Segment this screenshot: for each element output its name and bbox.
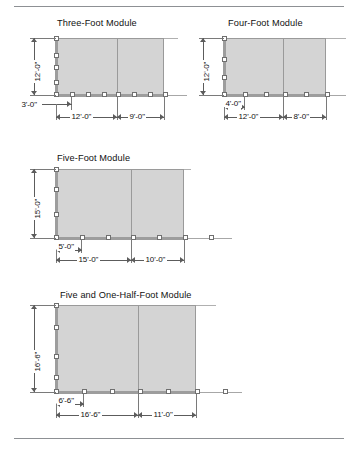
- bay-dimension-label: 8'-0": [292, 112, 310, 121]
- rail-node: [54, 80, 59, 85]
- dimension-tick: [31, 91, 37, 95]
- dimension-tick: [56, 257, 60, 263]
- rail-node: [86, 92, 91, 97]
- dimension-tick: [56, 114, 60, 120]
- figure-page: Three-Foot Module 12'-0" 3'-0": [0, 0, 357, 450]
- offset-dimension-label: 5'-0": [57, 242, 75, 251]
- height-dimension-label: 12'-0": [33, 60, 42, 83]
- witness-line: [199, 95, 224, 96]
- height-dimension-line: [34, 305, 35, 392]
- base-rail: [55, 237, 185, 240]
- witness-line: [71, 96, 72, 110]
- witness-line: [164, 96, 165, 120]
- page-rule-bottom: [14, 438, 344, 439]
- witness-line: [30, 392, 56, 393]
- rail-node: [222, 75, 227, 80]
- page-rule-top: [14, 6, 344, 7]
- bay-dimension-label: 11'-0": [152, 410, 174, 419]
- rail-node: [209, 235, 214, 240]
- bay-1: [224, 38, 284, 96]
- bay-2: [132, 169, 184, 239]
- height-dimension-label: 12'-0": [202, 60, 211, 83]
- rail-node: [222, 57, 227, 62]
- dimension-tick: [192, 412, 196, 418]
- dimension-tick: [31, 234, 37, 238]
- offset-dimension-label: 3'-0": [20, 100, 38, 109]
- dimension-tick: [67, 101, 71, 107]
- dimension-tick: [56, 412, 60, 418]
- rail-node: [157, 235, 162, 240]
- dimension-tick: [31, 388, 37, 392]
- rail-node: [304, 92, 309, 97]
- dimension-tick: [80, 401, 84, 407]
- dimension-tick: [117, 114, 121, 120]
- dimension-tick: [31, 38, 37, 42]
- dimension-tick: [31, 169, 37, 173]
- base-rail-extension: [165, 95, 187, 96]
- module-title: Five and One-Half-Foot Module: [60, 290, 192, 300]
- dimension-tick: [322, 114, 326, 120]
- rail-node: [106, 235, 111, 240]
- rail-node: [132, 92, 137, 97]
- witness-line: [326, 96, 327, 120]
- base-rail: [223, 94, 327, 97]
- bay-dimension-label: 16'-6": [79, 410, 102, 419]
- base-rail-extension: [197, 392, 242, 393]
- bay-dimension-label: 12'-0": [237, 112, 260, 121]
- bay-2: [118, 38, 164, 96]
- dimension-tick: [200, 38, 206, 42]
- bay-2: [139, 305, 196, 393]
- witness-line: [30, 95, 56, 96]
- rail-node: [148, 92, 153, 97]
- rail-node: [110, 389, 115, 394]
- module-title: Four-Foot Module: [228, 18, 303, 28]
- dimension-tick: [224, 114, 228, 120]
- bay-1: [56, 169, 132, 239]
- module-title: Three-Foot Module: [57, 18, 137, 28]
- rail-node: [54, 375, 59, 380]
- rail-node: [54, 325, 59, 330]
- base-rail: [55, 391, 197, 394]
- rail-node: [54, 354, 59, 359]
- dimension-tick: [31, 305, 37, 309]
- height-dimension-label: 15'-0": [33, 197, 42, 220]
- dimension-tick: [138, 412, 142, 418]
- left-rail: [223, 38, 226, 96]
- bay-dimension-label: 9'-0": [128, 112, 146, 121]
- witness-line: [196, 393, 197, 418]
- witness-line: [30, 238, 56, 239]
- dimension-tick: [160, 114, 164, 120]
- rail-node: [166, 389, 171, 394]
- module-title: Five-Foot Module: [57, 153, 130, 163]
- rail-node: [54, 65, 59, 70]
- dimension-tick: [283, 114, 287, 120]
- bay-dimension-label: 10'-0": [144, 255, 167, 264]
- height-dimension-label: 16'-6": [33, 350, 42, 373]
- rail-node: [264, 92, 269, 97]
- dimension-tick: [180, 257, 184, 263]
- witness-line: [184, 239, 185, 263]
- offset-dimension-label: 6'-6": [57, 396, 75, 405]
- rail-node: [223, 389, 228, 394]
- dimension-tick: [78, 247, 82, 253]
- bay-2: [284, 38, 326, 96]
- bay-dimension-label: 12'-0": [70, 112, 93, 121]
- dimension-tick: [131, 257, 135, 263]
- rail-node: [54, 187, 59, 192]
- left-rail: [55, 169, 58, 239]
- bay-dimension-label: 15'-0": [77, 255, 100, 264]
- bay-1: [56, 38, 118, 96]
- rail-node: [54, 212, 59, 217]
- rail-node: [54, 53, 59, 58]
- rail-node: [102, 92, 107, 97]
- bay-1: [56, 305, 139, 393]
- offset-dimension-label: 4'-0": [224, 99, 242, 108]
- dimension-tick: [200, 91, 206, 95]
